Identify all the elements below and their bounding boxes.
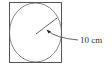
- radius-line: [36, 18, 57, 34]
- diagram-canvas: 10 cm: [0, 0, 112, 68]
- leader-line: [48, 31, 78, 40]
- radius-label: 10 cm: [80, 35, 102, 45]
- inscribed-circle: [10, 3, 62, 62]
